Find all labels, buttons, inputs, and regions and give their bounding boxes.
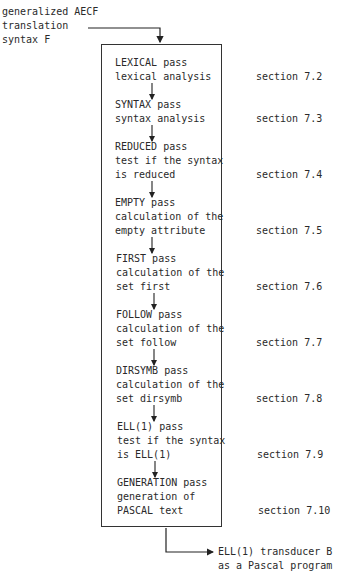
section-ref: section 7.5 [256, 224, 322, 238]
pass-desc: empty attribute [115, 224, 205, 238]
section-ref: section 7.3 [256, 112, 322, 126]
pass-desc: calculation of the [116, 378, 224, 392]
pass-desc: test if the syntax [115, 154, 223, 168]
pass-desc: lexical analysis [115, 70, 211, 84]
section-ref: section 7.9 [257, 448, 323, 462]
pass-desc: set first [116, 280, 170, 294]
pass-desc: calculation of the [116, 322, 224, 336]
section-ref: section 7.10 [258, 504, 330, 518]
pass-title: FOLLOW pass [116, 308, 182, 322]
pass-title: DIRSYMB pass [116, 364, 188, 378]
pass-desc: set dirsymb [116, 392, 182, 406]
pass-title: LEXICAL pass [115, 56, 187, 70]
pass-desc: test if the syntax [117, 434, 225, 448]
pass-desc: calculation of the [115, 210, 223, 224]
pass-title: REDUCED pass [115, 140, 187, 154]
section-ref: section 7.4 [256, 168, 322, 182]
section-ref: section 7.7 [256, 336, 322, 350]
pass-desc: syntax analysis [115, 112, 205, 126]
pass-title: FIRST pass [116, 252, 176, 266]
pass-title: SYNTAX pass [115, 98, 181, 112]
pass-title: GENERATION pass [117, 476, 207, 490]
pass-title: ELL(1) pass [117, 420, 183, 434]
pass-desc: set follow [116, 336, 176, 350]
section-ref: section 7.2 [256, 70, 322, 84]
output-line: ELL(1) transducer B [218, 545, 332, 559]
pass-desc: PASCAL text [117, 504, 183, 518]
pass-desc: is reduced [115, 168, 175, 182]
pass-desc: calculation of the [116, 266, 224, 280]
section-ref: section 7.8 [256, 392, 322, 406]
pass-title: EMPTY pass [115, 196, 175, 210]
section-ref: section 7.6 [256, 280, 322, 294]
output-line: as a Pascal program [218, 559, 332, 573]
pass-desc: is ELL(1) [117, 448, 171, 462]
pass-desc: generation of [117, 490, 195, 504]
